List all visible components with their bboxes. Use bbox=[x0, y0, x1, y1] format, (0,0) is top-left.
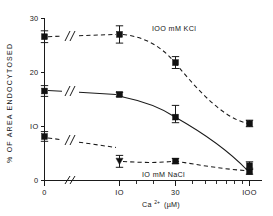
series-control-line-mid bbox=[79, 92, 116, 94]
series-control-line-10-30 bbox=[123, 97, 175, 117]
x-tick-label-30: 30 bbox=[171, 188, 180, 197]
x-axis-title-unit: (µM) bbox=[164, 200, 180, 209]
series-kcl-point-0 bbox=[41, 31, 48, 43]
series-kcl: IOO mM KCl bbox=[41, 24, 253, 127]
x-axis-group: 0 IO 30 IOO bbox=[42, 176, 262, 197]
y-axis-group: 30 20 IO 0 bbox=[30, 14, 45, 185]
series-kcl-point-100 bbox=[246, 120, 253, 127]
series-nacl: IO mM NaCl bbox=[41, 132, 253, 179]
y-tick-label-10: IO bbox=[30, 122, 38, 131]
series-nacl-line-10-30 bbox=[123, 161, 175, 162]
series-kcl-line-left bbox=[48, 36, 62, 37]
x-axis-title-group: Ca 2+ (µM) bbox=[142, 199, 180, 210]
series-kcl-point-30 bbox=[172, 57, 179, 69]
series-nacl-line-left bbox=[48, 138, 62, 140]
x-tick-label-0: 0 bbox=[42, 188, 46, 197]
series-nacl-break-mark bbox=[65, 135, 75, 145]
series-control-point-30 bbox=[172, 105, 179, 122]
series-control-break-mark bbox=[65, 86, 75, 96]
series-control-line-30-100 bbox=[175, 117, 247, 170]
x-tick-label-10: IO bbox=[115, 188, 123, 197]
x-axis-title-superscript: 2+ bbox=[154, 199, 160, 205]
y-tick-label-20: 20 bbox=[30, 68, 39, 77]
y-axis-title: % OF AREA ENDOCYTOSED bbox=[6, 43, 13, 163]
x-tick-label-100: IOO bbox=[242, 188, 256, 197]
series-kcl-line-10-30 bbox=[123, 35, 175, 63]
series-nacl-point-30 bbox=[172, 158, 179, 164]
series-kcl-line-mid bbox=[79, 34, 116, 35]
series-control-point-0 bbox=[41, 86, 48, 97]
series-nacl-line-mid bbox=[79, 142, 116, 147]
series-kcl-break-mark bbox=[65, 31, 75, 41]
series-kcl-line-30-100 bbox=[175, 63, 248, 124]
annotation-nacl: IO mM NaCl bbox=[142, 170, 185, 179]
annotation-kcl: IOO mM KCl bbox=[152, 24, 196, 33]
series-nacl-point-0 bbox=[41, 132, 48, 142]
series-nacl-point-100 bbox=[246, 168, 253, 174]
y-tick-label-0: 0 bbox=[34, 176, 38, 185]
series-control bbox=[41, 86, 253, 170]
figure-container: 30 20 IO 0 % OF AREA ENDOCYTOSED bbox=[0, 0, 273, 216]
series-nacl-point-10 bbox=[116, 155, 123, 167]
y-tick-label-30: 30 bbox=[30, 14, 39, 23]
series-control-line-left bbox=[48, 91, 62, 92]
series-kcl-point-10 bbox=[116, 26, 123, 43]
chart-canvas: 30 20 IO 0 % OF AREA ENDOCYTOSED bbox=[0, 0, 273, 216]
series-control-point-10 bbox=[116, 92, 123, 98]
series-nacl-line-30-100 bbox=[175, 161, 248, 171]
x-axis-title-base: Ca bbox=[142, 200, 152, 209]
